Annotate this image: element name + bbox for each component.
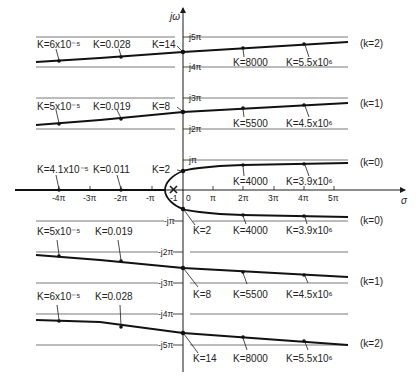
branch-tag-lower-k2: (k=2) xyxy=(360,338,383,349)
tick-neg-j2pi: -j2π xyxy=(158,247,173,257)
real-axis-label: σ xyxy=(401,195,408,206)
gain-label-lower-k2-d: K=8000 xyxy=(233,353,268,364)
tick-pi: π xyxy=(210,193,216,203)
gain-label-lower-k2-a: K=6x10⁻⁵ xyxy=(37,291,80,302)
tick-neg-jpi: -jπ xyxy=(164,216,175,226)
gain-label-lower-k0-d: K=4000 xyxy=(233,225,268,236)
gain-label-upper-k0-a: K=4.1x10⁻⁵ xyxy=(37,164,89,175)
gain-label-upper-k1-d: K=5500 xyxy=(233,118,268,129)
gain-label-lower-k2-c: K=14 xyxy=(193,353,217,364)
branch-tag-upper-k1: (k=1) xyxy=(360,98,383,109)
branch-tag-upper-k2: (k=2) xyxy=(360,38,383,49)
branch-tag-upper-k0: (k=0) xyxy=(360,157,383,168)
tick-neg-j3pi: -j3π xyxy=(158,278,173,288)
tick-j3pi: j3π xyxy=(188,93,202,103)
tick-j2pi: j2π xyxy=(188,124,202,134)
tick-j4pi: j4π xyxy=(188,62,202,72)
branch-tag-lower-k1: (k=1) xyxy=(360,276,383,287)
branch-lower-k2 xyxy=(36,320,348,345)
gain-label-lower-k2-b: K=0.028 xyxy=(95,291,133,302)
tick-jpi: jπ xyxy=(188,155,197,165)
gain-label-lower-k1-e: K=4.5x10⁶ xyxy=(286,289,333,300)
gain-label-upper-k1-e: K=4.5x10⁶ xyxy=(286,118,333,129)
gain-label-upper-k1-a: K=5x10⁻⁵ xyxy=(37,101,80,112)
tick-3pi: 3π xyxy=(268,193,279,203)
tick-neg-2pi: -2π xyxy=(114,193,128,203)
tick-neg-j4pi: -j4π xyxy=(158,309,173,319)
gain-label-upper-k1-b: K=0.019 xyxy=(93,101,131,112)
tick-neg-4pi: -4π xyxy=(52,193,66,203)
gain-label-upper-k2-c: K=14 xyxy=(152,39,176,50)
tick-5pi: 5π xyxy=(328,193,339,203)
branch-lower-k1 xyxy=(36,255,348,277)
tick-j5pi: j5π xyxy=(188,32,202,42)
gain-label-upper-k0-d: K=4000 xyxy=(233,176,268,187)
gain-label-lower-k1-c: K=8 xyxy=(193,289,212,300)
gain-label-upper-k2-a: K=6x10⁻⁵ xyxy=(37,39,80,50)
gain-label-lower-k0-e: K=3.9x10⁶ xyxy=(286,225,333,236)
gain-label-lower-k1-d: K=5500 xyxy=(233,289,268,300)
gain-label-lower-k0-c: K=2 xyxy=(193,225,212,236)
gain-label-upper-k2-d: K=8000 xyxy=(233,57,268,68)
gain-label-lower-k2-e: K=5.5x10⁶ xyxy=(286,353,333,364)
gain-label-lower-k1-a: K=5x10⁻⁵ xyxy=(37,226,80,237)
gain-label-upper-k2-e: K=5.5x10⁶ xyxy=(286,57,333,68)
tick-neg-pi: -π xyxy=(146,193,155,203)
tick-neg-j5pi: -j5π xyxy=(158,340,173,350)
imag-axis-label: jω xyxy=(168,11,180,22)
gain-label-upper-k1-c: K=8 xyxy=(152,101,171,112)
tick-4pi: 4π xyxy=(298,193,309,203)
gain-label-upper-k0-e: K=3.9x10⁶ xyxy=(286,176,333,187)
root-locus-diagram: jω σ -4π -3π -2π -π -1 0 π 2π 3π 4π 5π j… xyxy=(0,0,419,381)
tick-neg-3pi: -3π xyxy=(83,193,97,203)
tick-2pi: 2π xyxy=(238,193,249,203)
gain-label-lower-k1-b: K=0.019 xyxy=(95,226,133,237)
gain-label-upper-k0-b: K=0.011 xyxy=(93,164,130,175)
gain-label-upper-k2-b: K=0.028 xyxy=(93,39,131,50)
branch-tag-lower-k0: (k=0) xyxy=(360,215,383,226)
tick-origin: 0 xyxy=(186,193,191,203)
gain-label-upper-k0-c: K=2 xyxy=(152,164,171,175)
